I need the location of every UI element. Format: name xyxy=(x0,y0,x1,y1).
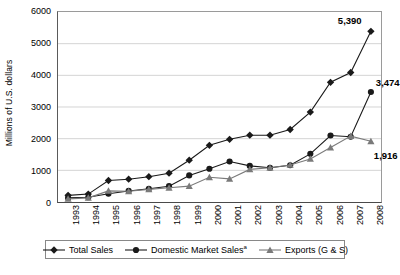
x-axis-tick-label: 2005 xyxy=(315,205,324,225)
legend-item-label: Exports (G & S) xyxy=(285,245,348,255)
y-axis-title-text: Millions of U.S. dollars xyxy=(4,59,14,145)
x-axis-tick-label: 1999 xyxy=(194,205,203,225)
legend-footnote-marker: a xyxy=(244,244,247,250)
x-axis-tick-label: 2007 xyxy=(356,205,365,225)
series-line xyxy=(68,92,371,198)
y-axis-title: Millions of U.S. dollars xyxy=(0,0,18,205)
y-axis-tick-label: 2000 xyxy=(31,135,51,144)
y-axis-tick-label: 4000 xyxy=(31,71,51,80)
x-axis-tick-label: 2004 xyxy=(295,205,304,225)
y-axis-tick-label: 5000 xyxy=(31,39,51,48)
data-point-marker xyxy=(206,166,212,172)
data-point-marker xyxy=(327,79,334,86)
footer-note xyxy=(60,266,300,275)
x-axis-tick-label: 2000 xyxy=(214,205,223,225)
data-series xyxy=(65,89,374,201)
x-axis-tick-label: 1998 xyxy=(173,205,182,225)
data-series xyxy=(64,28,374,199)
data-point-marker xyxy=(327,144,334,150)
data-point-marker xyxy=(266,132,273,139)
data-point-marker xyxy=(226,136,233,143)
chart-legend: Total SalesDomestic Market SalesaExports… xyxy=(45,240,345,259)
x-axis-tick-label: 1996 xyxy=(133,205,142,225)
x-axis-tick-label: 2008 xyxy=(376,205,385,225)
x-axis-tick-label: 1995 xyxy=(112,205,121,225)
series-line xyxy=(68,136,371,199)
data-point-marker xyxy=(133,246,139,252)
x-axis-tick-labels: 1993199419951996199719981999200020012002… xyxy=(57,205,382,238)
data-series xyxy=(65,133,375,202)
y-axis-tick-labels: 0100020003000400050006000 xyxy=(18,0,54,205)
x-axis-tick-label: 2006 xyxy=(336,205,345,225)
data-point-marker xyxy=(307,155,314,161)
x-axis-tick-label: 2002 xyxy=(254,205,263,225)
plot-svg xyxy=(58,12,381,202)
x-axis-tick-label: 1994 xyxy=(92,205,101,225)
data-point-marker xyxy=(246,132,253,139)
legend-item[interactable]: Total Sales xyxy=(42,245,113,255)
data-point-marker xyxy=(368,89,374,95)
plot-area xyxy=(57,11,382,203)
legend-item-label: Total Sales xyxy=(69,245,113,255)
data-point-label: 5,390 xyxy=(338,16,362,26)
legend-item[interactable]: Domestic Market Salesa xyxy=(124,245,247,255)
x-axis-tick-label: 1993 xyxy=(72,205,81,225)
legend-item-label: Domestic Market Salesa xyxy=(151,245,247,255)
triangle-marker-icon xyxy=(258,245,282,255)
data-point-marker xyxy=(367,28,374,35)
y-axis-tick-label: 6000 xyxy=(31,7,51,16)
data-point-label: 3,474 xyxy=(376,78,400,88)
x-axis-tick-label: 2003 xyxy=(275,205,284,225)
data-point-marker xyxy=(327,132,333,138)
data-point-marker xyxy=(105,177,112,184)
legend-item[interactable]: Exports (G & S) xyxy=(258,245,348,255)
data-point-marker xyxy=(227,158,233,164)
series-line xyxy=(68,31,371,195)
diamond-marker-icon xyxy=(42,245,66,255)
x-axis-tick-label: 1997 xyxy=(153,205,162,225)
data-point-marker xyxy=(145,173,152,180)
data-point-label: 1,916 xyxy=(374,151,398,161)
data-point-marker xyxy=(186,172,192,178)
x-axis-tick-label: 2001 xyxy=(234,205,243,225)
data-point-marker xyxy=(50,246,57,253)
circle-marker-icon xyxy=(124,245,148,255)
y-axis-tick-label: 0 xyxy=(46,199,51,208)
y-axis-tick-label: 3000 xyxy=(31,103,51,112)
y-axis-tick-label: 1000 xyxy=(31,167,51,176)
data-point-marker xyxy=(125,176,132,183)
